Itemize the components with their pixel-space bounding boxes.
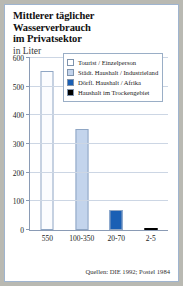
legend-item: Städt. Haushalt / Industrieland: [67, 68, 158, 77]
bar-slot: 550: [30, 58, 65, 230]
legend-swatch-icon: [67, 59, 74, 66]
y-axis-label: 600: [13, 54, 24, 63]
legend-swatch-icon: [67, 69, 74, 76]
legend-swatch-icon: [67, 89, 74, 96]
y-axis-tick: [26, 143, 30, 144]
y-axis-label: 400: [13, 111, 24, 120]
gridline: [30, 200, 168, 201]
x-axis-label: 550: [42, 234, 53, 243]
y-axis-label: 500: [13, 82, 24, 91]
x-axis-label: 20-70: [108, 234, 126, 243]
gridline: [30, 143, 168, 144]
page-title-line1: Mittlerer täglicher Wasserverbrauch: [13, 10, 172, 33]
legend-item-label: Tourist / Einzelperson: [78, 59, 136, 67]
x-axis-label: 2-5: [146, 234, 156, 243]
y-axis-label: 0: [20, 226, 24, 235]
y-axis-tick: [26, 172, 30, 173]
gridline: [30, 172, 168, 173]
x-axis-label: 100-350: [69, 234, 94, 243]
bar: [41, 71, 54, 230]
legend-item-label: Haushalt im Trockengebiet: [78, 89, 149, 97]
y-axis-label: 100: [13, 197, 24, 206]
bar: [144, 228, 157, 230]
y-axis-label: 300: [13, 140, 24, 149]
gridline: [30, 114, 168, 115]
legend-item: Dörfl. Haushalt / Afrika: [67, 78, 158, 87]
y-axis-tick: [26, 86, 30, 87]
legend-item: Tourist / Einzelperson: [67, 58, 158, 67]
title-block: Mittlerer täglicher Wasserverbrauch im P…: [13, 10, 172, 57]
page-title-line2: im Privatsektor: [13, 33, 172, 45]
y-axis-tick: [26, 57, 30, 58]
chart-figure: Mittlerer täglicher Wasserverbrauch im P…: [4, 4, 179, 282]
chart-legend: Tourist / EinzelpersonStädt. Haushalt / …: [63, 53, 163, 102]
y-axis-label: 200: [13, 168, 24, 177]
bar: [110, 210, 123, 230]
y-axis-tick: [26, 114, 30, 115]
legend-item-label: Städt. Haushalt / Industrieland: [78, 69, 158, 77]
legend-swatch-icon: [67, 79, 74, 86]
y-axis-tick: [26, 229, 30, 230]
y-axis-tick: [26, 200, 30, 201]
source-note: Quellen: DIE 1992; Postel 1984: [85, 268, 170, 275]
bar: [75, 129, 88, 230]
legend-item: Haushalt im Trockengebiet: [67, 88, 158, 97]
legend-item-label: Dörfl. Haushalt / Afrika: [78, 79, 141, 87]
